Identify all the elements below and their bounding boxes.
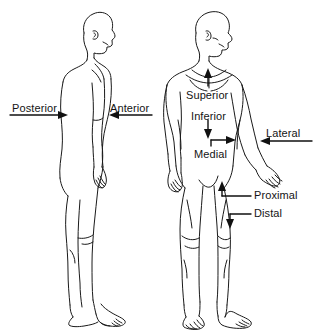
label-lateral: Lateral — [266, 128, 300, 139]
label-medial: Medial — [194, 149, 227, 160]
label-distal: Distal — [254, 208, 282, 219]
annotation-arrows — [10, 68, 312, 229]
arrow-distal — [226, 214, 251, 229]
arrow-proximal — [218, 181, 251, 196]
label-anterior: Anterior — [110, 103, 149, 114]
arrow-inferior — [204, 120, 212, 139]
label-posterior: Posterior — [12, 103, 57, 114]
anatomical-figures-artwork — [0, 0, 313, 334]
figure-anterior — [164, 12, 282, 330]
arrow-medial — [211, 136, 236, 146]
label-superior: Superior — [186, 90, 228, 101]
label-proximal: Proximal — [254, 190, 298, 201]
diagram-canvas: Posterior Anterior Superior Inferior Med… — [0, 0, 313, 334]
label-inferior: Inferior — [191, 111, 226, 122]
figure-lateral-profile — [60, 12, 126, 326]
